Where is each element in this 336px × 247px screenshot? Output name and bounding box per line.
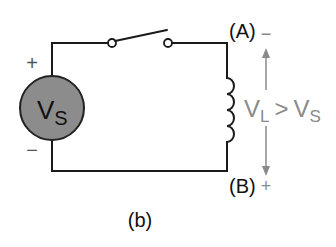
voltage-relation: VL>VS: [244, 95, 321, 126]
wire-top-right: [172, 43, 227, 78]
switch-right-contact: [164, 39, 172, 47]
source-plus-sign: +: [26, 52, 38, 74]
switch-blade: [115, 30, 167, 41]
circuit-diagram: VS + − (A) − (B) + VL>VS (b): [0, 0, 336, 247]
node-a-polarity: −: [261, 24, 272, 44]
wire-bottom: [52, 140, 227, 171]
arrowhead-up-icon: [262, 48, 270, 58]
inductor-coil: [227, 78, 234, 142]
figure-caption: (b): [128, 209, 152, 231]
node-a-label: (A): [229, 20, 256, 42]
arrowhead-down-icon: [262, 166, 270, 176]
node-b-polarity: +: [261, 176, 272, 196]
wire-top-left: [52, 43, 108, 76]
node-b-label: (B): [229, 175, 256, 197]
source-minus-sign: −: [26, 139, 38, 161]
